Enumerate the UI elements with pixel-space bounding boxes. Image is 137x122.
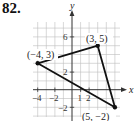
tick-x-1: 1 — [78, 93, 83, 103]
vertex-label-c: (5, −2) — [82, 111, 109, 122]
tick-y-6: 6 — [63, 32, 68, 42]
vertex-label-a: (−4, 3) — [27, 49, 54, 61]
tick-x-neg2: −2 — [49, 93, 59, 103]
x-axis-arrow-icon — [121, 87, 127, 92]
vertex-point — [36, 61, 40, 65]
vertex-point — [113, 105, 117, 109]
y-axis-label: y — [69, 0, 75, 11]
vertex-label-b: (3, 5) — [86, 33, 108, 45]
x-axis-label: x — [128, 84, 134, 95]
coordinate-plot: y x −4 −2 1 2 6 2 −2 (−4, 3) (3, 5) (5, … — [0, 0, 137, 121]
tick-y-2: 2 — [63, 67, 68, 77]
tick-y-neg2: −2 — [58, 103, 68, 113]
tick-x-neg4: −4 — [32, 93, 42, 103]
tick-x-2: 2 — [86, 93, 91, 103]
vertex-point — [96, 44, 100, 48]
